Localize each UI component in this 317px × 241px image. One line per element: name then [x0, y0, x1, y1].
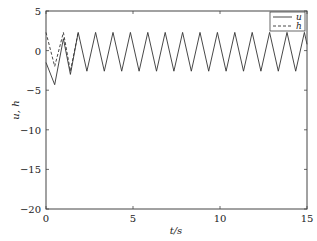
y-tick-label-5: 5 [35, 6, 41, 17]
y-tick-labels: 5 0 −5 −10 −15 −20 [20, 6, 41, 215]
line-chart: 0 5 10 15 5 0 −5 −10 −15 −20 t/s u, h u … [0, 0, 317, 241]
y-tick-label-neg20: −20 [20, 204, 41, 215]
x-tick-label-15: 15 [301, 213, 314, 224]
y-tick-label-0: 0 [35, 46, 41, 57]
x-tick-label-10: 10 [214, 213, 227, 224]
y-axis-label: u, h [10, 100, 21, 119]
x-tick-labels: 0 5 10 15 [43, 213, 314, 224]
x-tick-label-0: 0 [43, 213, 49, 224]
y-tick-label-neg15: −15 [20, 164, 41, 175]
x-tick-label-5: 5 [130, 213, 136, 224]
series-h-line [46, 32, 78, 71]
legend: u h [270, 12, 305, 32]
x-axis-label: t/s [170, 225, 183, 236]
plot-lines [46, 32, 307, 84]
y-tick-label-neg5: −5 [26, 85, 41, 96]
legend-label-h: h [296, 21, 302, 31]
y-tick-label-neg10: −10 [20, 125, 41, 136]
series-u-line [46, 32, 307, 84]
